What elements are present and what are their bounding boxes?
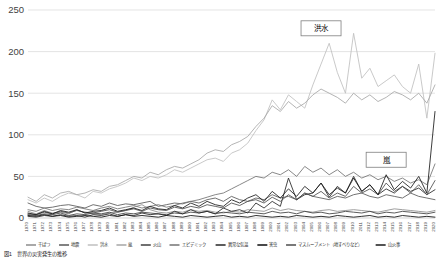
caption-label: 図1 世界の災害発生の推移 — [4, 250, 67, 258]
x-tick-label-2011: 2011 — [358, 221, 363, 231]
series-line-5 — [28, 164, 435, 211]
x-tick-label-2013: 2013 — [374, 221, 379, 231]
legend-label-7: 害虫 — [269, 241, 278, 248]
x-tick-label-2017: 2017 — [407, 221, 412, 231]
annotation-label-0: 洪水 — [314, 23, 329, 33]
x-tick-label-1980: 1980 — [105, 221, 110, 231]
x-tick-label-1988: 1988 — [171, 221, 176, 231]
x-tick-label-2000: 2000 — [268, 221, 273, 231]
legend-label-1: 地震 — [71, 241, 80, 248]
x-tick-label-1998: 1998 — [252, 221, 257, 231]
x-tick-label-1976: 1976 — [73, 221, 78, 231]
x-tick-label-2004: 2004 — [301, 221, 306, 231]
series-line-1 — [28, 193, 435, 208]
x-tick-label-1984: 1984 — [138, 221, 143, 231]
x-tick-label-1985: 1985 — [146, 221, 151, 231]
x-tick-label-2001: 2001 — [276, 221, 281, 231]
x-tick-label-1973: 1973 — [48, 221, 53, 231]
y-axis-tick-labels: 050100150200250 — [8, 4, 24, 223]
x-tick-label-1987: 1987 — [162, 221, 167, 231]
x-tick-label-1995: 1995 — [228, 221, 233, 231]
x-tick-label-1981: 1981 — [114, 221, 119, 231]
legend-label-8: マスムーブメント（地すべりなど） — [298, 241, 362, 248]
figure-caption: 図1 世界の災害発生の推移 — [4, 250, 67, 258]
annotation-label-1: 嵐 — [383, 156, 391, 165]
x-tick-label-2015: 2015 — [390, 221, 395, 231]
legend-label-0: 干ばつ — [38, 241, 50, 248]
legend-label-6: 異常な気温 — [228, 241, 249, 248]
x-tick-label-2016: 2016 — [398, 221, 403, 231]
series-line-3 — [28, 85, 435, 201]
x-tick-label-2005: 2005 — [309, 221, 314, 231]
x-tick-label-1974: 1974 — [57, 221, 62, 231]
x-tick-label-1997: 1997 — [244, 221, 249, 231]
x-tick-label-1992: 1992 — [203, 221, 208, 231]
x-tick-label-2007: 2007 — [325, 221, 330, 231]
legend-label-9: 山火事 — [388, 241, 401, 248]
x-tick-label-1991: 1991 — [195, 221, 200, 231]
x-tick-label-2009: 2009 — [341, 221, 346, 231]
x-tick-label-1994: 1994 — [219, 221, 224, 231]
x-tick-label-1979: 1979 — [97, 221, 102, 231]
x-axis-tick-labels: 1970197119721973197419751976197719781979… — [24, 221, 436, 231]
x-tick-label-1977: 1977 — [81, 221, 86, 231]
x-tick-label-2014: 2014 — [382, 221, 387, 231]
x-tick-label-2010: 2010 — [350, 221, 355, 231]
legend-label-2: 洪水 — [100, 241, 109, 248]
x-tick-label-1970: 1970 — [24, 221, 29, 231]
legend-label-5: エピデミック — [182, 241, 206, 248]
x-tick-label-1972: 1972 — [40, 221, 45, 231]
x-tick-label-2008: 2008 — [333, 221, 338, 231]
x-tick-label-1971: 1971 — [32, 221, 37, 231]
x-tick-label-1999: 1999 — [260, 221, 265, 231]
x-tick-label-1993: 1993 — [211, 221, 216, 231]
x-tick-label-1986: 1986 — [154, 221, 159, 231]
legend-label-3: 嵐 — [128, 241, 133, 248]
x-tick-label-2020: 2020 — [431, 221, 436, 231]
chart-legend: 干ばつ地震洪水嵐火山エピデミック異常な気温害虫マスムーブメント（地すべりなど）山… — [26, 241, 401, 248]
y-tick-label-250: 250 — [8, 4, 24, 15]
x-tick-label-1983: 1983 — [130, 221, 135, 231]
x-tick-label-2003: 2003 — [293, 221, 298, 231]
y-tick-label-150: 150 — [8, 88, 24, 99]
y-tick-label-50: 50 — [13, 171, 24, 182]
gridlines-group — [28, 10, 435, 218]
x-tick-label-2012: 2012 — [366, 221, 371, 231]
chart-container: 050100150200250 197019711972197319741975… — [0, 0, 441, 258]
x-tick-label-1990: 1990 — [187, 221, 192, 231]
x-tick-label-2002: 2002 — [284, 221, 289, 231]
x-tick-label-2006: 2006 — [317, 221, 322, 231]
x-tick-label-1975: 1975 — [65, 221, 70, 231]
legend-label-4: 火山 — [153, 241, 161, 248]
disaster-trend-line-chart: 050100150200250 197019711972197319741975… — [0, 0, 441, 258]
y-tick-label-200: 200 — [8, 46, 24, 57]
x-tick-label-1989: 1989 — [179, 221, 184, 231]
y-tick-label-0: 0 — [19, 212, 24, 223]
series-line-7 — [28, 215, 435, 218]
y-tick-label-100: 100 — [8, 129, 24, 140]
x-tick-label-1978: 1978 — [89, 221, 94, 231]
x-tick-label-1982: 1982 — [122, 221, 127, 231]
data-series-group — [28, 33, 435, 217]
x-tick-label-2018: 2018 — [415, 221, 420, 231]
x-tick-label-2019: 2019 — [423, 221, 428, 231]
x-tick-label-1996: 1996 — [236, 221, 241, 231]
